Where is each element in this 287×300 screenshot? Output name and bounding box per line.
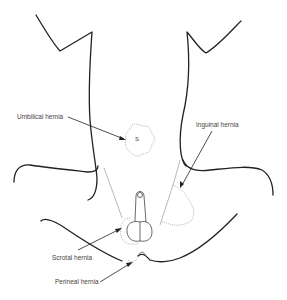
umbilical-hernia-leader <box>68 117 124 139</box>
right-hip-outline <box>183 160 273 195</box>
left-hip-outline <box>14 165 98 182</box>
scrotal-hernia-bulge <box>120 218 139 244</box>
body-outline-drawing <box>0 0 287 300</box>
glans-outline <box>138 193 143 198</box>
right-torso-outline <box>180 21 241 166</box>
left-groin-line <box>104 168 122 218</box>
umbilicus-marker: S <box>135 136 139 142</box>
hernia-diagram: Umbilical hernia Inguinal hernia Scrotal… <box>0 0 287 300</box>
inguinal-hernia-label: Inguinal hernia <box>196 122 239 129</box>
umbilical-arrowhead <box>119 136 126 140</box>
right-groin-line <box>160 160 180 225</box>
scrotal-arrowhead <box>115 228 122 233</box>
right-inner-thigh-outline <box>138 214 237 262</box>
perineal-hernia-bulge <box>128 258 138 262</box>
penis-outline <box>135 192 146 223</box>
umbilical-hernia-label: Umbilical hernia <box>17 114 63 121</box>
scrotal-hernia-label: Scrotal hernia <box>52 255 92 262</box>
scrotum-outline <box>127 221 152 241</box>
umbilical-hernia-bulge <box>126 124 155 156</box>
perineal-hernia-leader <box>100 263 131 282</box>
inguinal-hernia-leader <box>182 131 212 185</box>
scrotal-hernia-leader <box>78 229 120 250</box>
perineal-hernia-label: Perineal hernia <box>55 279 99 286</box>
perineal-arrowhead <box>126 262 133 267</box>
inguinal-hernia-bulge <box>162 185 194 225</box>
